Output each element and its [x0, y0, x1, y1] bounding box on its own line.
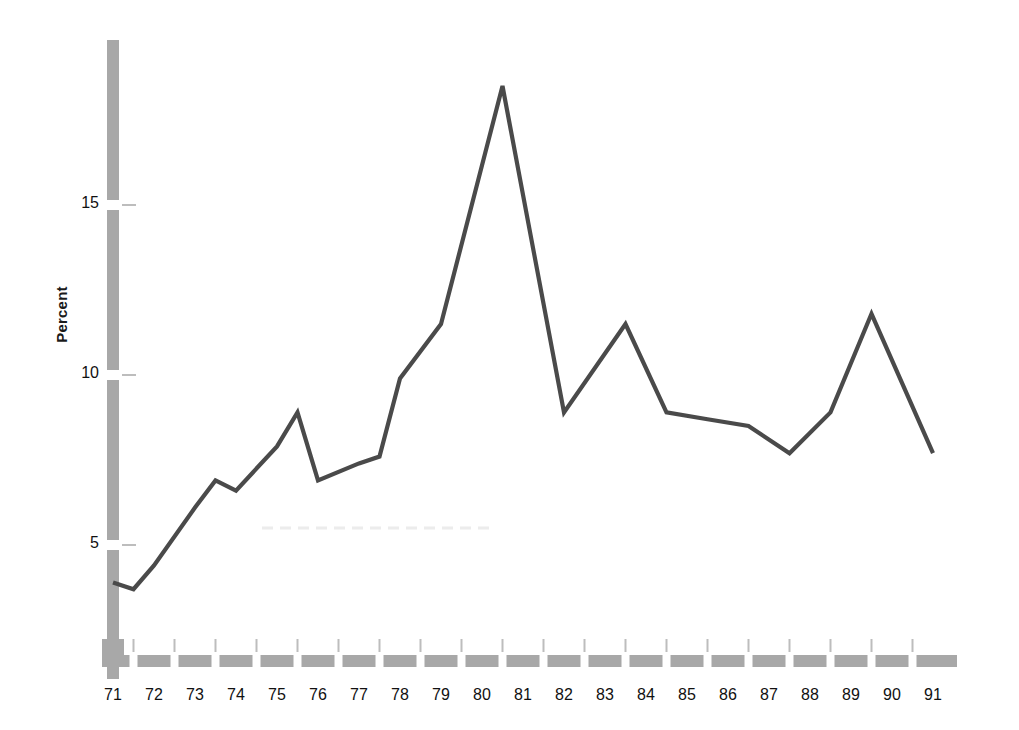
x-tick-mark-9: [502, 639, 504, 652]
y-axis-segment-1: [107, 210, 119, 370]
axis-origin-block: [102, 639, 124, 667]
y-tick-mark-0: [122, 544, 136, 546]
x-axis-tick-marks: [133, 639, 914, 652]
x-tick-label-83: 83: [585, 686, 625, 704]
x-axis-segment-16: [753, 655, 786, 667]
x-axis-segment-12: [589, 655, 622, 667]
y-axis-segment-0: [107, 40, 119, 200]
x-tick-label-72: 72: [134, 686, 174, 704]
x-tick-mark-5: [338, 639, 340, 652]
x-tick-mark-14: [707, 639, 709, 652]
x-tick-mark-15: [748, 639, 750, 652]
x-tick-mark-12: [625, 639, 627, 652]
x-tick-label-87: 87: [749, 686, 789, 704]
x-axis-segment-20: [917, 655, 958, 667]
x-axis-segment-15: [712, 655, 745, 667]
x-tick-mark-17: [830, 639, 832, 652]
x-tick-mark-18: [871, 639, 873, 652]
x-tick-label-86: 86: [708, 686, 748, 704]
x-tick-mark-19: [912, 639, 914, 652]
x-tick-label-81: 81: [503, 686, 543, 704]
x-tick-label-77: 77: [339, 686, 379, 704]
x-axis-segment-3: [220, 655, 253, 667]
x-tick-label-79: 79: [421, 686, 461, 704]
x-tick-mark-2: [215, 639, 217, 652]
x-axis-segment-11: [548, 655, 581, 667]
x-tick-mark-7: [420, 639, 422, 652]
x-tick-label-84: 84: [626, 686, 666, 704]
x-tick-label-90: 90: [872, 686, 912, 704]
x-tick-label-91: 91: [913, 686, 953, 704]
x-axis-segment-19: [876, 655, 909, 667]
x-tick-label-80: 80: [462, 686, 502, 704]
x-axis-segment-7: [384, 655, 417, 667]
x-axis-segment-14: [671, 655, 704, 667]
x-axis-segment-4: [261, 655, 294, 667]
x-tick-label-73: 73: [175, 686, 215, 704]
series-line-0: [113, 86, 933, 589]
chart-container: Percent 51015 71727374757677787980818283…: [0, 0, 1019, 730]
x-tick-label-75: 75: [257, 686, 297, 704]
x-tick-label-78: 78: [380, 686, 420, 704]
x-axis-segment-13: [630, 655, 663, 667]
x-tick-mark-3: [256, 639, 258, 652]
x-tick-label-85: 85: [667, 686, 707, 704]
y-axis-segment-2: [107, 380, 119, 540]
x-axis-segment-1: [138, 655, 171, 667]
x-axis-segment-17: [794, 655, 827, 667]
x-tick-label-76: 76: [298, 686, 338, 704]
x-tick-label-89: 89: [831, 686, 871, 704]
x-tick-label-71: 71: [93, 686, 133, 704]
x-axis-segment-8: [425, 655, 458, 667]
x-axis-segment-9: [466, 655, 499, 667]
x-tick-mark-4: [297, 639, 299, 652]
y-tick-label-10: 10: [55, 364, 99, 382]
y-axis-tick-marks: [122, 204, 136, 546]
x-tick-label-74: 74: [216, 686, 256, 704]
x-axis-segment-2: [179, 655, 212, 667]
x-tick-mark-6: [379, 639, 381, 652]
x-tick-mark-1: [174, 639, 176, 652]
x-tick-label-82: 82: [544, 686, 584, 704]
y-axis-title: Percent: [53, 260, 70, 370]
y-tick-mark-1: [122, 374, 136, 376]
x-axis: [102, 639, 957, 667]
chart-plot-area: [0, 0, 1019, 730]
x-tick-mark-16: [789, 639, 791, 652]
x-tick-label-88: 88: [790, 686, 830, 704]
x-tick-mark-10: [543, 639, 545, 652]
y-tick-label-5: 5: [55, 534, 99, 552]
x-axis-segment-18: [835, 655, 868, 667]
x-axis-segment-6: [343, 655, 376, 667]
x-tick-mark-11: [584, 639, 586, 652]
data-series-line: [113, 86, 933, 589]
x-tick-mark-0: [133, 639, 135, 652]
x-tick-mark-8: [461, 639, 463, 652]
y-tick-label-15: 15: [55, 194, 99, 212]
x-axis-segment-5: [302, 655, 335, 667]
x-axis-segment-10: [507, 655, 540, 667]
x-tick-mark-13: [666, 639, 668, 652]
y-tick-mark-2: [122, 204, 136, 206]
